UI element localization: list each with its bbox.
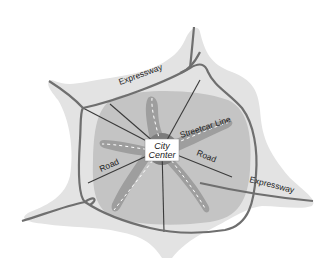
city-center-label-line2: Center (148, 150, 176, 160)
city-center-box: City Center (145, 139, 179, 161)
urban-structure-diagram: Expressway Expressway Streetcar Line Roa… (0, 0, 330, 259)
